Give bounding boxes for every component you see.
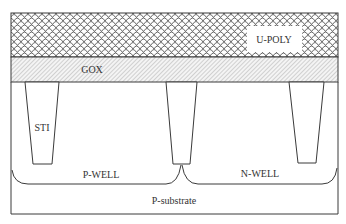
sti-label: STI: [35, 122, 50, 133]
nwell-label: N-WELL: [241, 168, 279, 179]
sti-middle: [166, 82, 197, 164]
sti-left: STI: [25, 82, 59, 164]
poly-layer: U-POLY: [11, 13, 338, 57]
poly-label: U-POLY: [256, 34, 292, 45]
pwell-label: P-WELL: [83, 169, 120, 180]
gox-label: GOX: [81, 64, 103, 75]
gox-layer: GOX: [11, 57, 338, 82]
pwell-region: P-WELL: [12, 165, 181, 184]
cross-section-diagram: U-POLY GOX P-substrate P-WELL N-WELL STI: [0, 0, 346, 224]
substrate-label: P-substrate: [152, 195, 197, 206]
sti-right: [289, 82, 324, 163]
nwell-region: N-WELL: [182, 165, 337, 184]
